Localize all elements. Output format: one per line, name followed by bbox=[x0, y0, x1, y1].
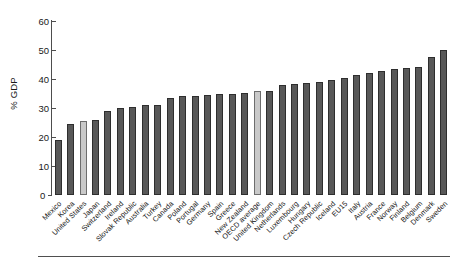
chart-figure: % GDP 102030405060 0 MexicoKoreaUnited S… bbox=[0, 0, 475, 266]
bar[interactable] bbox=[428, 57, 435, 195]
bar[interactable] bbox=[80, 121, 87, 195]
bar-slot bbox=[425, 21, 437, 195]
bar-slot bbox=[363, 21, 375, 195]
bar-slot bbox=[52, 21, 64, 195]
bar[interactable] bbox=[241, 93, 248, 195]
bar[interactable] bbox=[316, 82, 323, 195]
bar-slot bbox=[164, 21, 176, 195]
bar[interactable] bbox=[303, 83, 310, 195]
bar-slot bbox=[127, 21, 139, 195]
bar-slot bbox=[189, 21, 201, 195]
bar[interactable] bbox=[353, 75, 360, 195]
plot-area: 102030405060 bbox=[52, 21, 450, 195]
bar[interactable] bbox=[229, 94, 236, 196]
bar-slot bbox=[102, 21, 114, 195]
x-axis-label-slot: Sweden bbox=[438, 197, 450, 255]
bar-series bbox=[52, 21, 450, 195]
y-axis-tick-label: 50 bbox=[38, 45, 52, 56]
bar-slot bbox=[201, 21, 213, 195]
bar-slot bbox=[288, 21, 300, 195]
y-axis-tick-label: 40 bbox=[38, 74, 52, 85]
bar-slot bbox=[375, 21, 387, 195]
bar-slot bbox=[239, 21, 251, 195]
bar[interactable] bbox=[279, 85, 286, 195]
y-axis-tick-20: 20 bbox=[38, 128, 52, 146]
y-axis-tick-label: 30 bbox=[38, 103, 52, 114]
y-axis-tick-label: 60 bbox=[38, 16, 52, 27]
bar[interactable] bbox=[266, 91, 273, 195]
bar-slot bbox=[326, 21, 338, 195]
bar[interactable] bbox=[104, 111, 111, 195]
bar[interactable] bbox=[440, 50, 447, 195]
y-axis-tick-label: 10 bbox=[38, 161, 52, 172]
bar-slot bbox=[263, 21, 275, 195]
bar-slot bbox=[64, 21, 76, 195]
bar[interactable] bbox=[55, 140, 62, 195]
bar[interactable] bbox=[378, 71, 385, 195]
bar[interactable] bbox=[291, 84, 298, 195]
bar[interactable] bbox=[341, 78, 348, 195]
y-axis-label: % GDP bbox=[8, 59, 19, 129]
bar[interactable] bbox=[154, 105, 161, 195]
bar[interactable] bbox=[117, 108, 124, 195]
bar[interactable] bbox=[254, 91, 261, 195]
bar[interactable] bbox=[391, 69, 398, 195]
figure-bottom-rule bbox=[38, 256, 450, 257]
y-axis-tick-50: 50 bbox=[38, 41, 52, 59]
bar[interactable] bbox=[403, 68, 410, 195]
bar-slot bbox=[313, 21, 325, 195]
bar-slot bbox=[214, 21, 226, 195]
y-axis-tick-zero: 0 bbox=[40, 190, 45, 201]
bar-slot bbox=[152, 21, 164, 195]
y-axis-tick-mark-zero bbox=[48, 195, 52, 196]
bar-slot bbox=[438, 21, 450, 195]
bar-slot bbox=[139, 21, 151, 195]
y-axis-tick-label: 20 bbox=[38, 132, 52, 143]
bar-slot bbox=[351, 21, 363, 195]
bar-slot bbox=[301, 21, 313, 195]
bar[interactable] bbox=[204, 95, 211, 195]
bar[interactable] bbox=[67, 124, 74, 195]
bar[interactable] bbox=[179, 96, 186, 195]
bar-slot bbox=[276, 21, 288, 195]
bar[interactable] bbox=[167, 98, 174, 195]
bar[interactable] bbox=[366, 73, 373, 195]
bar-slot bbox=[251, 21, 263, 195]
bar-slot bbox=[226, 21, 238, 195]
y-axis-tick-10: 10 bbox=[38, 157, 52, 175]
bar[interactable] bbox=[92, 120, 99, 195]
bar-slot bbox=[413, 21, 425, 195]
bar-slot bbox=[89, 21, 101, 195]
y-axis-tick-60: 60 bbox=[38, 12, 52, 30]
bar[interactable] bbox=[415, 67, 422, 195]
bar-slot bbox=[77, 21, 89, 195]
bar-slot bbox=[400, 21, 412, 195]
bar-slot bbox=[388, 21, 400, 195]
bar[interactable] bbox=[192, 96, 199, 195]
bar-slot bbox=[114, 21, 126, 195]
y-axis-tick-30: 30 bbox=[38, 99, 52, 117]
bar[interactable] bbox=[216, 94, 223, 195]
bar[interactable] bbox=[142, 105, 149, 195]
bar[interactable] bbox=[129, 107, 136, 195]
y-axis-tick-40: 40 bbox=[38, 70, 52, 88]
bar-slot bbox=[176, 21, 188, 195]
bar[interactable] bbox=[328, 80, 335, 195]
x-axis-tick-labels: MexicoKoreaUnited StatesJapanSwitzerland… bbox=[52, 197, 450, 255]
bar-slot bbox=[338, 21, 350, 195]
